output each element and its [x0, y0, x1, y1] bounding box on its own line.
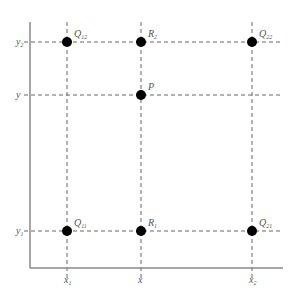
y-label-y2: y2 — [15, 36, 23, 48]
point-p — [136, 90, 146, 100]
point-label-q22: Q22 — [259, 28, 272, 40]
point-label-q21: Q21 — [259, 217, 272, 229]
y-label-y1: y1 — [15, 225, 23, 237]
point-r1 — [136, 226, 146, 236]
point-q11 — [62, 226, 72, 236]
dashed-grid-lines — [24, 22, 283, 278]
data-points — [62, 37, 257, 236]
point-q22 — [247, 37, 257, 47]
x-label-x: x — [137, 274, 143, 285]
y-label-y: y — [15, 89, 21, 100]
point-q12 — [62, 37, 72, 47]
point-r2 — [136, 37, 146, 47]
x-label-x2: x2 — [248, 274, 256, 286]
point-label-p: P — [147, 81, 154, 92]
point-label-q11: Q11 — [74, 217, 87, 229]
point-label-q12: Q12 — [74, 28, 87, 40]
point-q21 — [247, 226, 257, 236]
bilinear-interpolation-diagram: Q12R2Q22PQ11R1Q21x1xx2y2yy1 — [0, 0, 298, 296]
point-label-r2: R2 — [147, 28, 157, 40]
x-label-x1: x1 — [63, 274, 71, 286]
axis-labels: Q12R2Q22PQ11R1Q21x1xx2y2yy1 — [15, 28, 272, 286]
point-label-r1: R1 — [147, 217, 157, 229]
